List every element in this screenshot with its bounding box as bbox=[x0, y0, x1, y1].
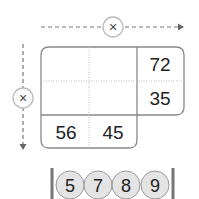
ball-rack: 5 7 8 9 bbox=[51, 168, 175, 199]
times-icon: × bbox=[109, 19, 117, 35]
top-multiply-operator: × bbox=[103, 17, 123, 37]
cell-r3-c1: 56 bbox=[55, 122, 76, 143]
grid: 72 35 56 45 bbox=[41, 47, 184, 148]
svg-text:8: 8 bbox=[121, 176, 131, 196]
ball-2: 7 bbox=[84, 171, 112, 199]
ball-3: 8 bbox=[112, 171, 140, 199]
cell-r2-c3: 35 bbox=[149, 88, 170, 109]
svg-text:5: 5 bbox=[65, 176, 75, 196]
ball-4: 9 bbox=[141, 171, 169, 199]
times-icon: × bbox=[19, 90, 27, 106]
ball-1: 5 bbox=[56, 171, 84, 199]
diagram-canvas: × × 72 35 56 45 5 7 bbox=[0, 0, 199, 199]
svg-text:7: 7 bbox=[93, 176, 103, 196]
svg-text:9: 9 bbox=[150, 176, 160, 196]
cell-r1-c3: 72 bbox=[149, 54, 170, 75]
left-multiply-operator: × bbox=[13, 88, 33, 108]
cell-r3-c2: 45 bbox=[102, 122, 123, 143]
